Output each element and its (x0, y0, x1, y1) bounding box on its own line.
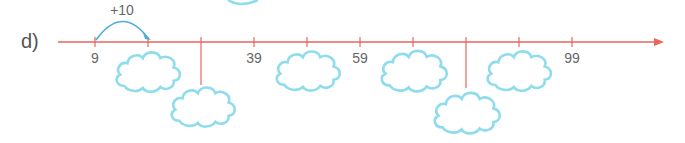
cloud-29 (172, 87, 235, 126)
cloud-89 (488, 51, 551, 90)
jump-arrowhead-icon (143, 33, 151, 40)
cloud-49 (277, 51, 340, 90)
tick-label-99: 99 (564, 50, 580, 66)
cloud-69 (382, 51, 447, 91)
tick-label-39: 39 (246, 50, 262, 66)
cloud-79 (435, 93, 500, 133)
number-line (0, 0, 685, 143)
tick-label-59: 59 (352, 50, 368, 66)
tick-label-9: 9 (91, 50, 99, 66)
cloud-fragment (228, 0, 258, 4)
axis-arrow-icon (654, 38, 664, 46)
jump-arc (96, 21, 148, 40)
cloud-19 (117, 52, 180, 91)
